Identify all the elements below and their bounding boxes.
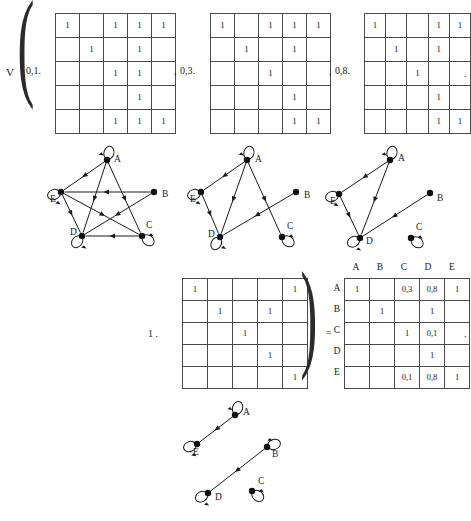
cell: 1 [128,62,152,86]
table-row: 1 1 [365,110,471,134]
graph-alpha-0-1: ABCDE [42,148,177,253]
graph-node-label: E [193,447,199,457]
table-row: 0,1 0,8 1 [345,367,470,389]
cell [345,301,370,323]
graph-node-label: E [190,194,196,204]
graph-alpha-0-3: ABCDE [182,148,317,253]
matrix-table: 1 0,3 0,8 1 1 1 1 0,1 [344,278,470,389]
table-row: 1 1 [365,38,471,62]
cell [208,367,233,389]
cell [365,62,386,86]
cell [233,367,258,389]
table-row: 1 1 [183,279,308,301]
cell [208,345,233,367]
graph-node-label: A [114,154,121,164]
table-row: 1 [183,345,308,367]
cell [183,323,208,345]
cell: 1 [283,38,307,62]
graph-node-label: B [437,193,443,203]
cell [370,323,395,345]
row-header-b: B [331,299,343,320]
cell [386,110,407,134]
cell [259,86,283,110]
cell [211,86,235,110]
row-header-e: E [331,362,343,383]
table-row: 1 [183,323,308,345]
matrix-alpha-0-3: 1 1 1 1 1 1 1 [210,13,331,134]
graph-node-label: A [398,153,405,163]
cell: 1 [283,86,307,110]
right-big-paren: ) [301,255,318,375]
table-row: 1 [211,86,331,110]
cell [211,62,235,86]
col-header-b: B [368,262,392,272]
cell [235,62,259,86]
matrix-table: 1 1 1 1 1 1 [364,13,471,134]
left-big-paren: ( [18,0,35,104]
cell: 1 [449,110,470,134]
cell: 1 [128,110,152,134]
table-row: 1 1 [211,38,331,62]
cell: 1 [104,14,128,38]
graph-node-label: B [162,189,168,199]
cell [307,38,331,62]
cell: 1 [104,110,128,134]
graph-svg: ABCDE [312,148,452,253]
cell [407,86,428,110]
separator-2: , [329,65,332,76]
cell: 1 [152,110,176,134]
cell [233,345,258,367]
cell [365,110,386,134]
graph-node-label: C [287,221,293,231]
graph-result: ABCDE [140,398,300,513]
cell [211,110,235,134]
cell [283,62,307,86]
equation-trailing-dot: . [464,328,467,339]
cell: 1 [395,323,420,345]
cell [407,14,428,38]
cell [386,86,407,110]
table-row: 1 1 [183,301,308,323]
table-row: 1 1 [56,62,176,86]
cell [80,14,104,38]
table-row: 1 0,3 0,8 1 [345,279,470,301]
cell [395,301,420,323]
cell [407,110,428,134]
cell: 1 [208,301,233,323]
cell: 1 [445,367,470,389]
graph-node-label: B [304,190,310,200]
cell [56,38,80,62]
cell [56,110,80,134]
cell: 1 [345,279,370,301]
cell: 1 [428,110,449,134]
graph-node-label: A [255,154,262,164]
cell: 1 [211,14,235,38]
cell: 1 [233,323,258,345]
cell [395,345,420,367]
table-row: 1 [56,86,176,110]
table-row: 1 [365,62,471,86]
graph-node-label: C [258,476,264,486]
table-row: 1 1 [345,301,470,323]
cell [208,279,233,301]
row-header-d: D [331,341,343,362]
cell [258,323,283,345]
cell: 1 [128,86,152,110]
matrix-alpha-0-8: 1 1 1 1 1 1 [364,13,471,134]
cell [183,345,208,367]
cell [449,86,470,110]
table-row: 1 1 [56,38,176,62]
cell: 0,3 [395,279,420,301]
col-header-e: E [440,262,464,272]
matrix-table: 1 1 1 1 1 1 1 1 [55,13,176,134]
cell [235,86,259,110]
cell [258,279,283,301]
cell [152,38,176,62]
cell [152,86,176,110]
table-row: 1 0,1 [345,323,470,345]
cell: 1 [428,86,449,110]
cell [259,38,283,62]
graph-node-label: D [215,492,222,502]
cell: 1 [258,301,283,323]
cell [407,38,428,62]
